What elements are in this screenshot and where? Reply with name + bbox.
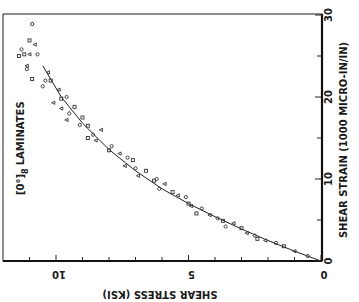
- fitted-curve: [43, 66, 321, 261]
- plot-frame: [3, 14, 322, 261]
- x-axis-label: SHEAR STRESS (KSI): [102, 289, 217, 300]
- y-tick-label: 30: [323, 8, 334, 22]
- data-points: [17, 22, 309, 257]
- y-axis-label: SHEAR STRAIN (1000 MICRO-IN/IN): [338, 42, 349, 238]
- axis-ticks: [30, 15, 322, 261]
- x-tick-label: 0: [320, 269, 327, 280]
- y-tick-label: 10: [323, 172, 334, 186]
- y-tick-label: 0: [323, 257, 334, 264]
- axis-tick-labels: 05100102030: [52, 8, 334, 280]
- shear-stress-strain-chart: 05100102030 SHEAR STRESS (KSI) SHEAR STR…: [0, 0, 359, 302]
- chart-title: [0°]8LAMINATES: [15, 101, 30, 195]
- x-tick-label: 10: [52, 269, 66, 280]
- x-tick-label: 5: [188, 269, 195, 280]
- y-tick-label: 20: [323, 90, 334, 104]
